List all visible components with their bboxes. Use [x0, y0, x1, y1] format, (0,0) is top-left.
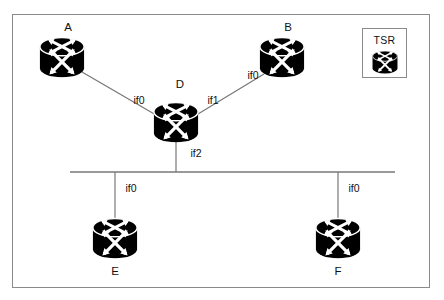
interface-label-e-if0: if0	[125, 183, 136, 194]
router-label-e: E	[111, 266, 119, 278]
interface-label-f-if0: if0	[348, 183, 359, 194]
router-f[interactable]	[315, 217, 361, 259]
router-icon	[259, 36, 305, 78]
link-a-d	[82, 72, 156, 115]
router-label-a: A	[64, 22, 72, 34]
router-icon	[92, 217, 138, 259]
interface-label-d-if0: if0	[133, 95, 144, 106]
interface-label-d-if2: if2	[190, 148, 201, 159]
router-icon	[315, 217, 361, 259]
router-a[interactable]	[39, 36, 85, 78]
router-label-f: F	[334, 266, 341, 278]
router-d[interactable]	[153, 101, 199, 143]
interface-label-b-if0: if0	[247, 70, 258, 81]
legend-box: TSR	[362, 28, 407, 78]
router-label-d: D	[176, 79, 184, 91]
router-icon	[372, 50, 398, 74]
router-e[interactable]	[92, 217, 138, 259]
router-icon	[153, 101, 199, 143]
router-icon	[39, 36, 85, 78]
router-b[interactable]	[259, 36, 305, 78]
legend-title: TSR	[374, 34, 396, 46]
interface-label-d-if1: if1	[207, 95, 218, 106]
network-diagram: ABDEF if0if1if2if0if0if0 TSR	[0, 0, 444, 300]
router-label-b: B	[284, 22, 292, 34]
